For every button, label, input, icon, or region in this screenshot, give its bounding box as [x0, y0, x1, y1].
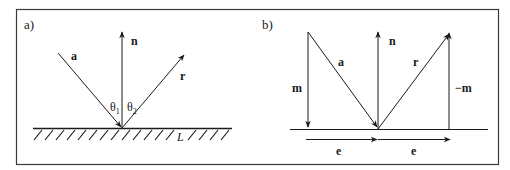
incident-label-b: a — [338, 55, 344, 69]
surface-hatching — [34, 130, 229, 140]
reflected-vector-r-b — [378, 34, 449, 129]
figure-frame — [17, 10, 499, 165]
neg-m-label: −m — [455, 81, 472, 95]
reflected-label: r — [180, 69, 186, 83]
e-2-label: e — [411, 144, 417, 158]
panel-a: a) L a n r — [24, 17, 232, 144]
normal-label-b: n — [389, 34, 396, 48]
incident-vector-a — [58, 53, 121, 127]
theta-1-label: θ1 — [110, 100, 120, 116]
incident-label: a — [71, 49, 77, 63]
panel-b: b) m a n r −m e e — [262, 17, 488, 158]
m-label: m — [292, 81, 302, 95]
e-1-label: e — [336, 144, 342, 158]
normal-label: n — [131, 34, 138, 48]
reflected-vector-r — [122, 55, 184, 128]
incident-vector-a-b — [308, 32, 377, 127]
surface-label: L — [176, 130, 184, 144]
reflected-label-b: r — [413, 55, 419, 69]
panel-a-label: a) — [24, 17, 34, 32]
theta-2-label: θ2 — [127, 100, 137, 116]
panel-b-label: b) — [262, 17, 273, 32]
reflection-diagram: a) L a n r — [0, 0, 510, 170]
